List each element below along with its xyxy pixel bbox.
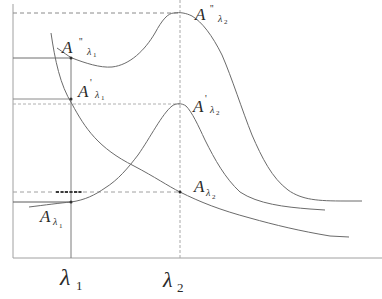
svg-text:'': '' (210, 3, 214, 14)
label-a-prime-lambda2: A ' λ 2 (192, 93, 220, 117)
point-a-lambda2 (179, 191, 182, 194)
svg-text:λ: λ (209, 104, 215, 115)
svg-text:A: A (61, 38, 73, 57)
label-a-lambda1: A λ 1 (39, 207, 63, 230)
svg-text:'': '' (79, 36, 83, 47)
svg-text:λ: λ (217, 13, 223, 24)
svg-text:A: A (192, 97, 204, 116)
svg-text:': ' (90, 77, 92, 88)
interferent-curve (51, 33, 349, 237)
svg-text:λ: λ (162, 267, 173, 292)
svg-text:2: 2 (177, 280, 184, 295)
svg-text:λ: λ (52, 216, 58, 227)
svg-text:A: A (194, 5, 206, 24)
x-tick-lambda2: λ 2 (162, 267, 184, 295)
label-a-lambda2: A λ 2 (193, 177, 216, 201)
svg-text:A: A (193, 177, 205, 196)
svg-text:1: 1 (101, 94, 105, 102)
svg-text:1: 1 (93, 51, 97, 59)
svg-text:2: 2 (216, 109, 220, 117)
svg-text:A: A (77, 82, 89, 101)
label-a-prime-lambda1: A ' λ 1 (77, 77, 105, 102)
svg-text:1: 1 (59, 222, 63, 230)
svg-text:': ' (205, 93, 207, 104)
label-a-double-prime-lambda1: A '' λ 1 (61, 36, 97, 59)
svg-text:A: A (39, 207, 51, 226)
svg-text:1: 1 (76, 278, 83, 293)
component-curve-prime (29, 104, 325, 210)
x-tick-lambda1: λ 1 (59, 264, 83, 293)
svg-text:λ: λ (59, 264, 70, 290)
point-a-lambda1 (70, 201, 73, 204)
point-a-prime-lambda1 (70, 98, 73, 101)
svg-text:2: 2 (224, 18, 228, 26)
absorbance-diagram: A '' λ 1 A ' λ 1 A λ 1 A '' λ 2 A ' λ 2 … (0, 0, 382, 299)
svg-text:λ: λ (205, 187, 211, 198)
svg-text:λ: λ (86, 46, 92, 57)
label-a-double-prime-lambda2: A '' λ 2 (194, 3, 228, 26)
svg-text:λ: λ (94, 89, 100, 100)
svg-text:2: 2 (212, 193, 216, 201)
